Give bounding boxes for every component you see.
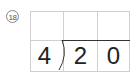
grid-line-bottom	[30, 71, 130, 72]
dividend-digit-2: 0	[97, 42, 130, 70]
problem-number-badge: 18	[6, 10, 19, 23]
long-division-grid: 4 2 0	[30, 11, 130, 72]
division-bar	[62, 40, 130, 41]
quotient-cell-2[interactable]	[64, 12, 97, 40]
dividend-digit-1: 2	[64, 42, 97, 70]
quotient-cell-1[interactable]	[31, 12, 63, 40]
divisor: 4	[28, 42, 61, 70]
quotient-cell-3[interactable]	[98, 12, 129, 40]
